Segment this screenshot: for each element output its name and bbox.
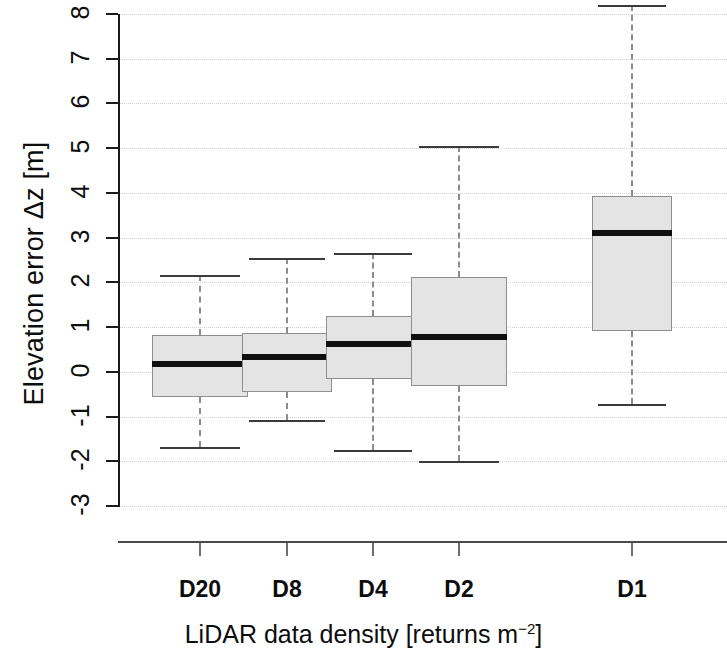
gridline [120, 59, 727, 61]
whisker-lower [372, 379, 374, 450]
boxplot-figure: 876543210-1-2-3 D20D8D4D2D1 Elevation er… [0, 0, 727, 657]
whisker-cap-upper [419, 146, 500, 148]
y-axis-line [118, 14, 120, 507]
whisker-cap-upper [249, 258, 325, 260]
y-tick [106, 460, 118, 462]
x-tick [286, 543, 288, 556]
x-axis-title-main: LiDAR data density [returns m [185, 620, 518, 648]
y-tick [106, 13, 118, 15]
whisker-lower [458, 386, 460, 461]
x-axis-title-exponent: −2 [518, 620, 535, 637]
x-tick-label: D2 [414, 576, 504, 603]
whisker-upper [286, 258, 288, 334]
y-tick-label: 2 [66, 261, 95, 301]
median-line [592, 230, 672, 236]
gridline [120, 417, 727, 419]
whisker-cap-lower [160, 447, 241, 449]
x-axis-line [118, 541, 727, 543]
whisker-cap-lower [598, 404, 665, 406]
whisker-upper [458, 146, 460, 276]
y-tick [106, 147, 118, 149]
y-tick-label: -1 [66, 395, 95, 435]
y-tick-label: 8 [66, 0, 95, 33]
box-iqr [411, 277, 507, 387]
x-tick [372, 543, 374, 556]
y-tick [106, 102, 118, 104]
gridline [120, 148, 727, 150]
y-tick-label: 1 [66, 306, 95, 346]
y-tick-label: 3 [66, 216, 95, 256]
x-tick-label: D8 [242, 576, 332, 603]
whisker-lower [199, 397, 201, 447]
box-iqr [592, 196, 672, 331]
whisker-cap-upper [160, 275, 241, 277]
y-tick-label: 6 [66, 82, 95, 122]
y-tick [106, 58, 118, 60]
y-tick [106, 371, 118, 373]
whisker-cap-lower [334, 450, 413, 452]
box-iqr [242, 333, 332, 392]
whisker-lower [286, 392, 288, 420]
median-line [326, 341, 420, 347]
y-tick [106, 416, 118, 418]
whisker-cap-lower [249, 420, 325, 422]
whisker-lower [631, 331, 633, 404]
y-tick [106, 505, 118, 507]
x-axis-title-tail: ] [535, 620, 542, 648]
plot-area: 876543210-1-2-3 D20D8D4D2D1 [0, 0, 727, 657]
y-axis-title: Elevation error Δz [m] [19, 44, 50, 504]
whisker-upper [199, 275, 201, 334]
whisker-upper [372, 253, 374, 316]
x-tick-label: D20 [155, 576, 245, 603]
x-tick [631, 543, 633, 556]
y-tick-label: 7 [66, 37, 95, 77]
y-tick-label: 5 [66, 127, 95, 167]
gridline [120, 506, 727, 508]
median-line [242, 354, 332, 360]
median-line [411, 334, 507, 340]
y-tick [106, 237, 118, 239]
y-tick-label: -3 [66, 485, 95, 525]
x-tick-label: D1 [587, 576, 677, 603]
y-tick-label: -2 [66, 440, 95, 480]
y-tick [106, 192, 118, 194]
x-tick [199, 543, 201, 556]
x-tick-label: D4 [328, 576, 418, 603]
median-line [152, 361, 248, 367]
gridline [120, 193, 727, 195]
box-iqr [326, 316, 420, 379]
y-tick [106, 281, 118, 283]
whisker-cap-upper [598, 5, 665, 7]
gridline [120, 103, 727, 105]
y-tick-label: 0 [66, 350, 95, 390]
whisker-cap-upper [334, 253, 413, 255]
x-tick [458, 543, 460, 556]
y-tick-label: 4 [66, 171, 95, 211]
x-axis-title: LiDAR data density [returns m−2] [0, 620, 727, 649]
y-tick [106, 326, 118, 328]
gridline [120, 14, 727, 16]
whisker-cap-lower [419, 461, 500, 463]
whisker-upper [631, 5, 633, 196]
